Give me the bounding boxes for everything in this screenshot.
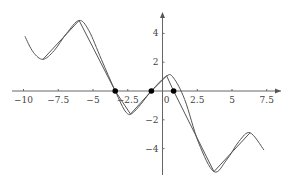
y-tick-label: 2 (153, 57, 159, 67)
chart-svg: −10−7.5−5−2.502.557.542−2−4 (0, 0, 291, 187)
x-tick-label: −5 (86, 95, 100, 105)
x-tick-label: 5 (229, 95, 235, 105)
axes: −10−7.5−5−2.502.557.542−2−4 (12, 12, 281, 175)
y-axis-arrow-icon (160, 12, 165, 18)
x-axis-arrow-icon (275, 89, 281, 94)
x-tick-label: −10 (14, 95, 33, 105)
x-tick-label: 2.5 (190, 95, 205, 105)
marked-point (149, 88, 155, 94)
x-tick-label: −2.5 (117, 95, 139, 105)
marked-point (171, 88, 177, 94)
x-tick-label: 7.5 (260, 95, 275, 105)
y-tick-label: −2 (145, 115, 158, 125)
y-tick-label: 4 (153, 28, 159, 38)
chart: −10−7.5−5−2.502.557.542−2−4 (0, 0, 291, 187)
x-tick-label: 0 (164, 95, 170, 105)
x-tick-label: −7.5 (47, 95, 69, 105)
y-tick-label: −4 (145, 144, 159, 154)
marked-point (112, 88, 118, 94)
